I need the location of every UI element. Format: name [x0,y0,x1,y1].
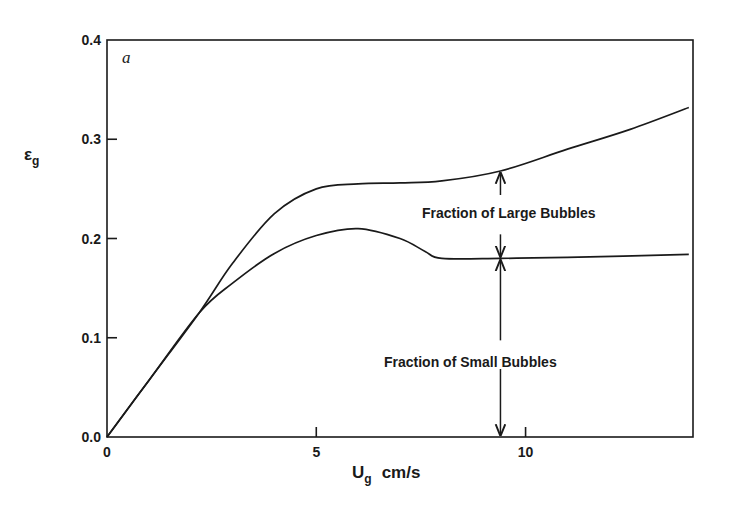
panel-label: a [122,48,131,67]
x-tick-label: 10 [518,444,534,460]
y-axis-ticks: 0.00.10.20.30.4 [82,32,117,445]
annotation-large-bubbles: Fraction of Large Bubbles [422,205,596,221]
x-tick-label: 0 [103,444,111,460]
y-tick-label: 0.4 [82,32,102,48]
data-curves [107,107,689,437]
x-axis-label: Ugcm/s [352,463,420,486]
y-tick-label: 0.1 [82,330,102,346]
annotation-small-bubbles: Fraction of Small Bubbles [384,354,557,370]
y-axis-label: εg [24,145,39,168]
y-tick-label: 0.3 [82,131,102,147]
x-axis-ticks: 0510 [103,427,533,460]
total-holdup-curve [107,107,689,437]
chart-svg: 0.00.10.20.30.4 0510 a εg Ugcm/s Fractio… [0,0,729,515]
y-tick-label: 0.2 [82,231,102,247]
small-bubble-curve [107,229,689,437]
y-tick-label: 0.0 [82,429,102,445]
x-tick-label: 5 [312,444,320,460]
